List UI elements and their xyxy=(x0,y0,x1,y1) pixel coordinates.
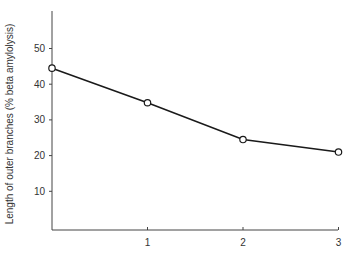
data-line xyxy=(52,68,339,152)
y-axis-label: Length of outer branches (% beta amyloly… xyxy=(4,24,15,225)
x-tick-label: 3 xyxy=(336,237,342,248)
y-tick-label: 50 xyxy=(34,43,46,54)
y-tick-label: 10 xyxy=(34,186,46,197)
x-tick-label: 2 xyxy=(240,237,246,248)
y-tick-label: 20 xyxy=(34,150,46,161)
x-tick-label: 1 xyxy=(145,237,151,248)
y-tick-label: 30 xyxy=(34,114,46,125)
data-point-marker xyxy=(240,136,246,142)
y-tick-label: 40 xyxy=(34,79,46,90)
data-point-marker xyxy=(144,100,150,106)
data-point-marker xyxy=(335,149,341,155)
line-chart: 1020304050123Length of outer branches (%… xyxy=(0,0,349,253)
data-point-marker xyxy=(49,65,55,71)
